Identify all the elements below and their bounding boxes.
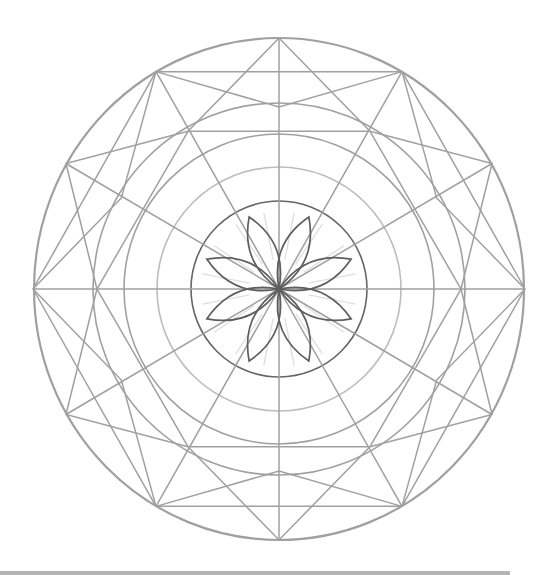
star-triangle: [66, 131, 188, 289]
star-triangle: [66, 289, 188, 447]
star-triangle: [370, 289, 492, 447]
hexagon-chord: [402, 289, 525, 506]
hexagon-chord: [402, 72, 525, 289]
mandala-canvas: [0, 0, 555, 575]
hexagon-chord: [33, 289, 156, 506]
hexagon-chord: [33, 72, 156, 289]
star-triangle: [370, 131, 492, 289]
bottom-bar: [0, 571, 510, 575]
